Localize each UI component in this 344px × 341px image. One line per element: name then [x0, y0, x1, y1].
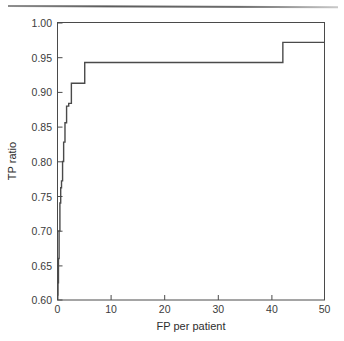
y-tick-label-0-70: 0.70: [32, 225, 53, 237]
y-tick-label-0-85: 0.85: [32, 121, 53, 133]
y-tick-label-0-90: 0.90: [32, 86, 53, 98]
y-tick-label-0-80: 0.80: [32, 156, 53, 168]
x-tick-label-20: 20: [159, 303, 171, 315]
x-axis-title: FP per patient: [157, 320, 226, 332]
x-tick-label-30: 30: [212, 303, 224, 315]
y-tick-label-0-60: 0.60: [32, 294, 53, 306]
y-tick-label-0-75: 0.75: [32, 191, 53, 203]
y-tick-label-0-65: 0.65: [32, 260, 53, 272]
x-tick-label-40: 40: [266, 303, 278, 315]
figure-container: 1.00 0.95 0.90 0.85 0.80 0.75 0.70 0.65 …: [0, 0, 344, 341]
x-tick-label-0: 0: [55, 303, 61, 315]
y-axis-title: TP ratio: [6, 142, 18, 180]
x-axis-ticks: [58, 295, 325, 300]
roc-chart: 1.00 0.95 0.90 0.85 0.80 0.75 0.70 0.65 …: [0, 0, 344, 341]
x-tick-label-50: 50: [319, 303, 331, 315]
x-tick-label-10: 10: [105, 303, 117, 315]
y-tick-label-0-95: 0.95: [32, 52, 53, 64]
plot-frame: [58, 23, 325, 301]
y-tick-label-1-00: 1.00: [32, 17, 53, 29]
froc-curve: [58, 42, 325, 300]
